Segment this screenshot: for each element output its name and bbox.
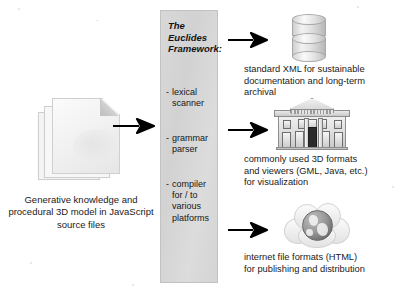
framework-stage-compiler: compiler for / to various platforms <box>166 179 218 224</box>
globe-landmass <box>306 229 313 236</box>
scan-speck <box>357 6 359 8</box>
output-xml-caption: standard XML for sustainable documentati… <box>236 64 404 99</box>
scan-speck <box>392 186 394 188</box>
sheet-shading <box>73 129 119 163</box>
building-window <box>334 132 343 148</box>
building-window <box>283 120 291 129</box>
building-window <box>295 131 304 148</box>
building-window <box>282 132 291 148</box>
scan-speck <box>30 262 32 264</box>
database-cylinder-icon <box>236 12 404 64</box>
building-door <box>308 127 317 149</box>
framework-panel: The Euclides Framework: lexical scanner … <box>160 10 218 283</box>
scan-speck <box>96 20 98 21</box>
output-3d-formats-caption: commonly used 3D formats and viewers (GM… <box>236 154 404 189</box>
building-window <box>334 120 342 129</box>
output-xml-archival: standard XML for sustainable documentati… <box>236 12 404 99</box>
building-base <box>276 147 348 150</box>
globe-landmass <box>309 215 318 226</box>
scan-speck <box>18 8 20 10</box>
globe-landmass <box>317 223 328 236</box>
globe-sphere <box>302 210 333 241</box>
classical-building-icon <box>236 98 404 154</box>
framework-stage-lexical-scanner: lexical scanner <box>166 87 218 109</box>
input-block: Generative knowledge and procedural 3D m… <box>6 96 156 231</box>
cylinder-cap-middle <box>292 33 326 44</box>
diagram-canvas: Generative knowledge and procedural 3D m… <box>0 0 405 300</box>
output-3d-formats: commonly used 3D formats and viewers (GM… <box>236 98 404 189</box>
cylinder-cap-top <box>292 14 326 25</box>
framework-title: The Euclides Framework: <box>168 20 212 55</box>
internet-globe-cloud-icon <box>236 200 404 252</box>
cylinder-cap-bottom <box>292 51 326 62</box>
input-caption: Generative knowledge and procedural 3D m… <box>6 194 156 231</box>
arrow-input-to-framework <box>113 118 155 134</box>
building-frieze <box>291 109 333 114</box>
output-internet-formats: internet file formats (HTML) for publish… <box>236 200 404 275</box>
building-column <box>318 118 323 149</box>
scan-speck <box>132 284 134 286</box>
framework-stage-grammar-parser: grammar parser <box>166 133 218 155</box>
output-internet-caption: internet file formats (HTML) for publish… <box>236 252 404 275</box>
document-stack-icon <box>38 96 124 184</box>
